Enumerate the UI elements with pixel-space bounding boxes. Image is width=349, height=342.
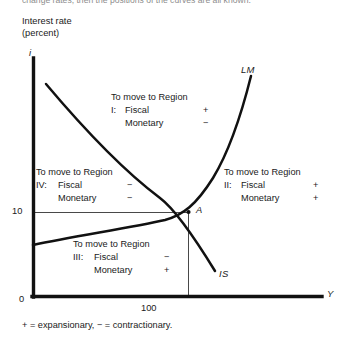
region-ii-sign-fiscal: + [313,179,318,192]
x-tick-label-100: 100 [141,303,157,313]
region-i-row-fiscal: I:Fiscal+ [111,104,188,117]
region-i-policy-monetary: Monetary [125,117,163,130]
figure-islm-policy-regions: change rates, then the positions of the … [0,0,349,342]
region-i-header: To move to Region [111,91,188,104]
figure-footnote: + = expansionary, − = contractionary. [22,320,172,330]
x-axis-symbol-label: Y [327,288,333,299]
region-i-policy-fiscal: Fiscal [125,104,149,117]
region-annotation-ii: To move to Region II:Fiscal+ Monetary+ [224,166,301,206]
region-iv-numeral: IV: [36,179,58,192]
region-iv-sign-monetary: − [127,192,132,205]
region-ii-numeral: II: [224,179,241,192]
region-ii-policy-monetary: Monetary [241,192,279,205]
region-iii-sign-monetary: + [164,264,169,277]
region-iv-row-fiscal: IV:Fiscal− [36,179,113,192]
y-tick-label-10: 10 [12,206,22,216]
region-annotation-i: To move to Region I:Fiscal+ Monetary− [111,91,188,131]
lm-curve-label: LM [241,64,255,75]
region-iii-policy-monetary: Monetary [94,264,132,277]
region-ii-sign-monetary: + [313,192,318,205]
region-i-sign-monetary: − [203,117,208,130]
region-iv-policy-monetary: Monetary [58,192,96,205]
y-axis-symbol-label: i [29,47,31,58]
origin-tick-label: 0 [19,294,24,304]
equilibrium-point-a [186,210,190,214]
region-i-numeral: I: [111,104,125,117]
equilibrium-label-a: A [196,205,202,215]
region-i-sign-fiscal: + [203,104,208,117]
region-iv-sign-fiscal: − [127,179,132,192]
region-iv-row-monetary: Monetary− [36,192,113,205]
region-ii-row-fiscal: II:Fiscal+ [224,179,301,192]
region-iii-numeral: III: [73,251,94,264]
is-curve-label: IS [219,268,229,279]
region-iii-header: To move to Region [73,238,150,251]
region-iv-policy-fiscal: Fiscal [58,179,82,192]
region-iii-row-monetary: Monetary+ [73,264,150,277]
region-ii-policy-fiscal: Fiscal [241,179,265,192]
region-ii-header: To move to Region [224,166,301,179]
region-iv-header: To move to Region [36,166,113,179]
region-annotation-iii: To move to Region III:Fiscal− Monetary+ [73,238,150,278]
region-i-row-monetary: Monetary− [111,117,188,130]
region-iii-row-fiscal: III:Fiscal− [73,251,150,264]
region-iii-sign-fiscal: − [164,251,169,264]
region-annotation-iv: To move to Region IV:Fiscal− Monetary− [36,166,113,206]
region-ii-row-monetary: Monetary+ [224,192,301,205]
region-iii-policy-fiscal: Fiscal [94,251,118,264]
